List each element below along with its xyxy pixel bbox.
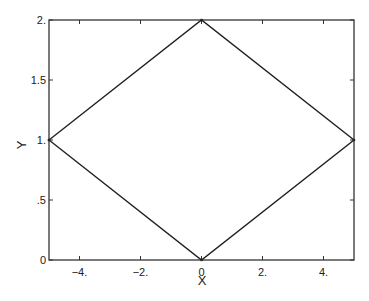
x-tick-label: −4. [72, 266, 88, 278]
y-tick-label: 2. [37, 14, 46, 26]
data-point [353, 139, 356, 142]
data-point [48, 139, 51, 142]
y-axis-label: Y [14, 140, 29, 149]
x-axis-label: X [198, 273, 207, 288]
y-tick-label: .5 [37, 194, 46, 206]
x-tick-label: 2. [258, 266, 267, 278]
x-tick-label: 4. [319, 266, 328, 278]
y-tick-label: 1. [37, 134, 46, 146]
data-point [200, 19, 203, 22]
series-group [48, 19, 356, 262]
y-tick-label: 0 [40, 254, 46, 266]
series-line-diamond [49, 20, 354, 260]
x-axis-ticks: −4.−2.02.4. [72, 20, 328, 278]
chart: −4.−2.02.4. 0.51.1.52. X Y [0, 0, 369, 301]
x-tick-label: −2. [133, 266, 149, 278]
y-tick-label: 1.5 [31, 74, 46, 86]
data-point [200, 259, 203, 262]
y-axis-ticks: 0.51.1.52. [31, 14, 354, 266]
plot-frame [49, 20, 354, 260]
